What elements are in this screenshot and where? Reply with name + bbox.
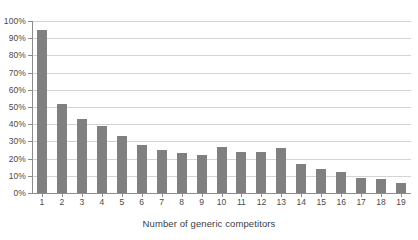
x-axis-tick-label: 17 — [356, 197, 365, 207]
bar — [396, 183, 406, 193]
bar — [197, 155, 207, 193]
bar — [137, 145, 147, 193]
x-axis-tick-label: 15 — [317, 197, 326, 207]
bar — [217, 147, 227, 193]
bar — [37, 30, 47, 193]
x-axis-tick-label: 1 — [40, 197, 45, 207]
y-axis-tick-label: 30% — [9, 136, 26, 146]
y-axis-tick-label: 50% — [9, 102, 26, 112]
x-axis-tick-label: 19 — [396, 197, 405, 207]
x-axis-tick-label: 8 — [179, 197, 184, 207]
y-axis-tick-label: 40% — [9, 119, 26, 129]
bar — [256, 152, 266, 193]
x-axis-tick-label: 5 — [119, 197, 124, 207]
x-axis-tick-label: 2 — [60, 197, 65, 207]
bar — [236, 152, 246, 193]
bar — [77, 119, 87, 193]
bar — [276, 148, 286, 193]
x-axis-tick-label: 10 — [217, 197, 226, 207]
x-axis-tick-label: 18 — [376, 197, 385, 207]
bar — [97, 126, 107, 193]
y-axis-labels: 0%10%20%30%40%50%60%70%80%90%100% — [0, 0, 32, 240]
bar — [117, 136, 127, 193]
bar — [356, 178, 366, 193]
x-axis-tick-label: 16 — [336, 197, 345, 207]
y-axis-tick-label: 10% — [9, 171, 26, 181]
y-axis-tick-label: 90% — [9, 33, 26, 43]
bar — [296, 164, 306, 193]
bar — [157, 150, 167, 193]
x-axis-title: Number of generic competitors — [0, 218, 418, 229]
x-axis-tick-label: 12 — [257, 197, 266, 207]
x-axis-tick-label: 11 — [237, 197, 246, 207]
x-axis-tick-label: 7 — [159, 197, 164, 207]
bar-chart: 0%10%20%30%40%50%60%70%80%90%100% 123456… — [0, 0, 418, 240]
x-axis-labels: 12345678910111213141516171819 — [32, 197, 411, 213]
y-axis-tick-label: 0% — [14, 188, 27, 198]
x-axis-tick-label: 14 — [297, 197, 306, 207]
bar — [336, 172, 346, 193]
x-axis-tick-label: 9 — [199, 197, 204, 207]
bar — [316, 169, 326, 193]
x-axis-tick-label: 13 — [277, 197, 286, 207]
bar — [177, 153, 187, 193]
y-axis-tick-label: 20% — [9, 154, 26, 164]
y-axis-tick-label: 100% — [4, 16, 26, 26]
x-axis-tick-label: 6 — [139, 197, 144, 207]
x-axis-tick-label: 3 — [79, 197, 84, 207]
y-axis-tick-label: 70% — [9, 68, 26, 78]
y-axis-tick-label: 80% — [9, 50, 26, 60]
y-axis-tick-label: 60% — [9, 85, 26, 95]
x-axis-tick-label: 4 — [99, 197, 104, 207]
bars-layer — [32, 21, 411, 193]
bar — [376, 179, 386, 193]
bar — [57, 104, 67, 193]
